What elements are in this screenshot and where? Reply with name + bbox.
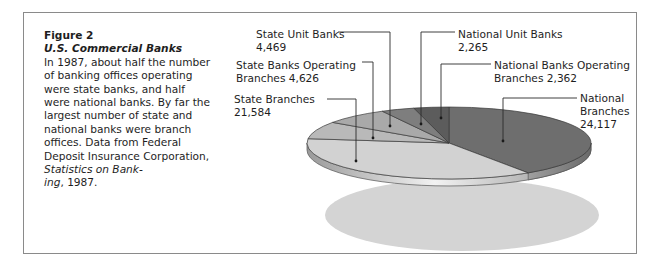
pie-shadow — [325, 179, 599, 251]
pie-slices — [307, 107, 591, 179]
label-national-unit-banks: National Unit Banks 2,265 — [458, 28, 563, 54]
label-national-operating-branches: National Banks Operating Branches 2,362 — [494, 59, 630, 85]
label-state-branches: State Branches 21,584 — [234, 93, 315, 119]
label-text: National — [580, 92, 629, 105]
label-value: Branches 4,626 — [236, 72, 356, 85]
label-value: Branches 2,362 — [494, 72, 630, 85]
label-state-operating-branches: State Banks Operating Branches 4,626 — [236, 59, 356, 85]
label-value: 21,584 — [234, 106, 315, 119]
label-text: National Banks Operating — [494, 59, 630, 72]
label-text: National Unit Banks — [458, 28, 563, 41]
label-text: State Unit Banks — [256, 28, 344, 41]
label-value: 4,469 — [256, 41, 344, 54]
label-text: State Branches — [234, 93, 315, 106]
label-text: State Banks Operating — [236, 59, 356, 72]
label-value: 2,265 — [458, 41, 563, 54]
label-value: 24,117 — [580, 118, 629, 131]
label-state-unit-banks: State Unit Banks 4,469 — [256, 28, 344, 54]
label-national-branches: National Branches 24,117 — [580, 92, 629, 131]
label-text-2: Branches — [580, 105, 629, 118]
